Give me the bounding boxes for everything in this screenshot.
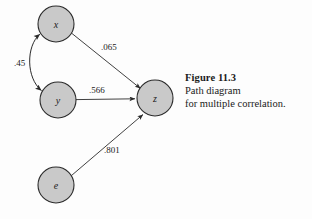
node-x-label: x bbox=[53, 19, 59, 30]
node-y-label: y bbox=[55, 95, 61, 106]
figure-caption-title: Figure 11.3 bbox=[185, 72, 307, 85]
node-e-label: e bbox=[54, 180, 59, 191]
figure-caption-line-1: Path diagram bbox=[185, 85, 307, 98]
figure-caption: Figure 11.3 Path diagram for multiple co… bbox=[185, 72, 307, 110]
figure-caption-line-2: for multiple correlation. bbox=[185, 98, 307, 111]
edge-label-x-z: .065 bbox=[101, 42, 117, 52]
edge-x-y-correlation-arrow bbox=[30, 34, 42, 90]
figure-container: x y z e .45 .065 .566 .801 Figure 11.3 P… bbox=[0, 0, 312, 219]
edge-label-e-z: .801 bbox=[104, 145, 120, 155]
edge-y-to-z-arrow bbox=[76, 99, 135, 100]
node-z-label: z bbox=[152, 93, 157, 104]
edge-label-x-y: .45 bbox=[14, 58, 26, 68]
edge-label-y-z: .566 bbox=[89, 85, 105, 95]
